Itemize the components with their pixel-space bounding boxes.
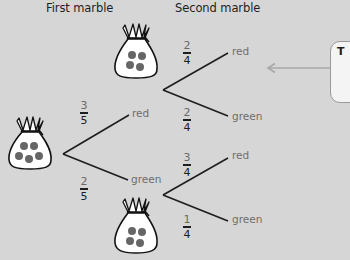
outcome-first-red: red [132, 107, 149, 119]
probability-tree-diagram: First marble Second marble T [0, 0, 350, 260]
prob-first-red: 3 5 [78, 100, 90, 126]
prob-second-red-green: 2 4 [181, 107, 193, 133]
branch-second-green-red [163, 158, 228, 195]
callout-box: T [330, 41, 350, 103]
bag-icon-after-green [111, 195, 161, 257]
callout-arrow [268, 64, 330, 73]
branch-first-green [63, 154, 128, 180]
outcome-second-green-red: red [232, 149, 249, 161]
callout-text: T [337, 45, 345, 58]
outcome-second-green-green: green [232, 213, 262, 225]
outcome-second-red-green: green [232, 110, 262, 122]
outcome-first-green: green [131, 173, 161, 185]
prob-first-green: 2 5 [78, 176, 90, 202]
branch-second-green-green [163, 195, 228, 221]
bag-icon-initial [5, 114, 55, 172]
branch-first-red [63, 115, 129, 154]
branch-second-red-red [163, 53, 228, 90]
bag-icon-after-red [111, 21, 161, 81]
prob-second-green-red: 3 4 [181, 152, 193, 178]
prob-second-green-green: 1 4 [181, 214, 193, 240]
prob-second-red-red: 2 4 [181, 40, 193, 66]
outcome-second-red-red: red [232, 45, 249, 57]
branch-second-red-green [163, 90, 228, 116]
